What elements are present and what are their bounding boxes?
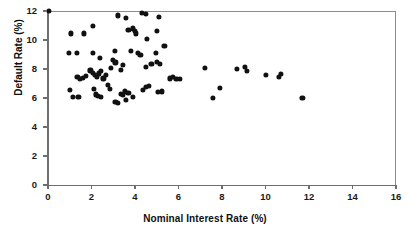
data-point [81,31,86,36]
data-point [103,72,108,77]
data-point [130,95,135,100]
data-point [177,77,182,82]
x-tick-label-2: 2 [80,192,104,202]
data-point [108,66,113,71]
data-point [153,50,158,55]
data-point [124,15,129,20]
y-tick-4 [43,126,47,128]
x-tick-4 [134,185,136,189]
data-point [263,72,268,77]
y-tick-8 [43,68,47,70]
data-point [98,56,103,61]
data-point [278,71,283,76]
data-point [107,87,112,92]
data-point [202,65,207,70]
data-point [149,61,154,66]
data-point [115,100,120,105]
data-point [124,98,129,103]
scatter-plot-figure: 024681012 0246810121416 Nominal Interest… [0,0,410,236]
data-point [143,11,148,16]
data-point [138,53,143,58]
x-tick-14 [352,185,354,189]
data-point [217,85,222,90]
data-point [90,50,95,55]
data-point [74,50,79,55]
y-tick-label-0: 0 [19,180,37,190]
y-tick-12 [43,10,47,12]
data-point [244,69,249,74]
data-point [70,94,75,99]
data-point [154,29,159,34]
x-tick-label-8: 8 [210,192,234,202]
data-point [68,31,73,36]
x-tick-16 [395,185,397,189]
data-point [67,50,72,55]
x-tick-label-0: 0 [36,192,60,202]
x-tick-10 [265,185,267,189]
data-point [143,64,148,69]
x-tick-label-10: 10 [254,192,278,202]
y-axis-label: Default Rate (%) [13,0,24,128]
x-tick-6 [178,185,180,189]
data-point [115,13,120,18]
data-point [128,48,133,53]
data-point [112,48,117,53]
x-tick-label-6: 6 [167,192,191,202]
plot-area [48,11,396,185]
data-point [133,31,138,36]
data-point [144,37,149,42]
data-point [113,60,118,65]
data-point [67,87,72,92]
data-point [99,94,104,99]
y-tick-6 [43,97,47,99]
x-tick-2 [91,185,93,189]
data-point [156,14,161,19]
y-tick-2 [43,155,47,157]
x-tick-0 [47,185,49,189]
data-point [162,43,167,48]
data-point [235,66,240,71]
data-point [46,8,51,13]
data-point [157,61,162,66]
data-point [300,95,305,100]
y-tick-10 [43,39,47,41]
data-point [160,89,165,94]
x-tick-label-14: 14 [341,192,365,202]
x-tick-8 [221,185,223,189]
data-point [83,73,88,78]
x-tick-label-4: 4 [123,192,147,202]
data-point [118,67,123,72]
y-tick-label-2: 2 [19,151,37,161]
x-tick-label-16: 16 [384,192,408,202]
data-point [211,95,216,100]
x-tick-label-12: 12 [297,192,321,202]
x-axis-label: Nominal Interest Rate (%) [0,213,410,224]
data-point [76,95,81,100]
data-point [147,83,152,88]
x-tick-12 [308,185,310,189]
data-point [90,23,95,28]
